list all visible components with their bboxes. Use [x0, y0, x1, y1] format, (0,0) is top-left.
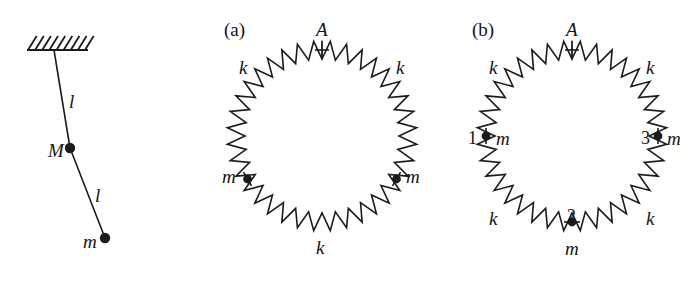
ring-a-mass-dot-1	[243, 175, 252, 184]
ring-a-mass-label-1: m	[222, 167, 236, 186]
pendulum-mass-M	[65, 143, 75, 153]
ring-b-mass-label-1: m	[496, 129, 510, 148]
ring-b-spring-label-3: k	[489, 209, 497, 228]
ring-a-spring-ring	[227, 41, 416, 230]
ring-a-mass-dot-2	[392, 175, 401, 184]
pendulum-length-label-2: l	[95, 186, 100, 205]
ring-b-mass-dot-1	[482, 132, 491, 141]
ring-b-mass-number-1: 1	[468, 129, 477, 147]
ring-b-fixed-point-label: A	[566, 20, 578, 39]
ring-a-fixed-point-label: A	[316, 20, 328, 39]
ring-b-spring-label-2: k	[646, 58, 654, 77]
ring-a-mass-label-2: m	[406, 167, 420, 186]
pendulum-length-label-1: l	[69, 92, 74, 111]
figure-artwork	[0, 0, 693, 285]
ring-b-spring-label-1: k	[489, 58, 497, 77]
pendulum-rod-upper	[54, 50, 70, 148]
ring-b-mass-number-2: 2	[567, 207, 576, 225]
ring-b-spring-label-4: k	[646, 209, 654, 228]
physics-figure: Mmll(a)Ammkkk(b)A1m2m3mkkkk	[0, 0, 693, 285]
ring-b-panel-label: (b)	[472, 20, 494, 39]
ring-b-mass-label-2: m	[565, 239, 579, 258]
ring-a-spring-label-3: k	[316, 238, 324, 257]
ring-a-spring-label-1: k	[239, 58, 247, 77]
pendulum-label-M: M	[48, 141, 64, 160]
ring-b-mass-label-3: m	[667, 129, 681, 148]
ring-b-mass-number-3: 3	[641, 129, 650, 147]
pendulum-mass-m	[100, 233, 110, 243]
pendulum-label-m: m	[83, 232, 97, 251]
ring-a-panel-label: (a)	[224, 20, 245, 39]
ring-a-spring-label-2: k	[396, 58, 404, 77]
ring-b-mass-dot-3	[654, 132, 663, 141]
